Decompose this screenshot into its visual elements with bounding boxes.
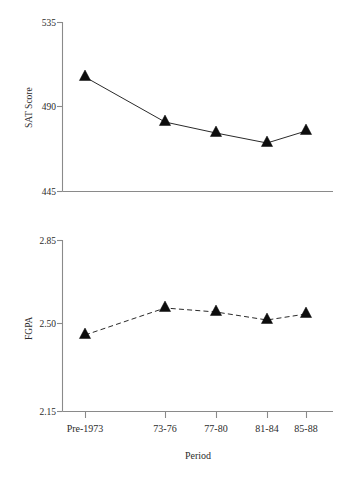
x-tick-label-3: 81-84 — [255, 423, 278, 434]
y-tick-label-fgpa-2: 2.15 — [39, 407, 56, 417]
x-axis-title: Period — [185, 450, 211, 461]
x-tick-label-0: Pre-1973 — [67, 423, 104, 434]
x-axis-labels: Pre-1973 73-76 77-80 81-84 85-88 — [67, 423, 318, 434]
y-tick-label-sat-0: 535 — [42, 18, 57, 28]
series-markers-sat-score — [79, 70, 311, 147]
data-point-sat-4 — [300, 124, 311, 135]
two-panel-line-chart: SAT Score 535 490 445 FGPA 2.85 2.50 2.1… — [0, 0, 350, 481]
data-point-sat-0 — [79, 70, 90, 81]
y-axis-title-fgpa: FGPA — [24, 316, 34, 340]
x-axis-ticks — [86, 412, 307, 419]
series-line-fgpa — [85, 308, 306, 335]
x-tick-label-2: 77-80 — [204, 423, 227, 434]
panel-fgpa: FGPA 2.85 2.50 2.15 Pre-1973 73-76 — [24, 236, 333, 461]
data-point-fgpa-4 — [300, 307, 311, 318]
y-axis-title-sat-score: SAT Score — [24, 87, 34, 128]
series-line-sat-score — [85, 77, 306, 143]
y-tick-label-sat-1: 490 — [42, 102, 57, 112]
data-point-fgpa-1 — [159, 301, 170, 312]
series-markers-fgpa — [79, 301, 311, 339]
x-tick-label-4: 85-88 — [294, 423, 317, 434]
data-point-sat-2 — [210, 126, 221, 137]
y-tick-label-fgpa-1: 2.50 — [39, 319, 56, 329]
data-point-sat-3 — [261, 136, 272, 147]
data-point-fgpa-3 — [261, 313, 272, 324]
x-tick-label-1: 73-76 — [153, 423, 176, 434]
y-tick-label-sat-2: 445 — [42, 187, 57, 197]
y-tick-label-fgpa-0: 2.85 — [39, 236, 56, 246]
panel-sat-score: SAT Score 535 490 445 — [24, 18, 333, 197]
data-point-fgpa-2 — [210, 305, 221, 316]
